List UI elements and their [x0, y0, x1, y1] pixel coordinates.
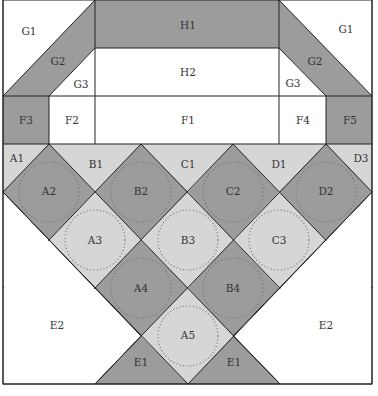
label-g3-right: G3 [285, 77, 300, 89]
label-a5: A5 [180, 329, 195, 341]
label-f4: F4 [296, 114, 310, 126]
label-e1-left: E1 [134, 356, 148, 368]
label-a4: A4 [133, 282, 149, 294]
label-g2-left: G2 [50, 55, 65, 67]
label-g3-left: G3 [73, 78, 88, 90]
label-a3: A3 [87, 234, 102, 246]
label-b2: B2 [134, 185, 148, 197]
label-f2: F2 [65, 114, 79, 126]
quilt-block-diagram: G1 G1 G2 G2 G3 G3 H1 H2 F1 F2 F3 F4 F5 A… [0, 0, 378, 396]
label-d1: D1 [271, 158, 286, 170]
label-f5: F5 [343, 114, 357, 126]
label-a2: A2 [41, 185, 56, 197]
label-c3: C3 [272, 234, 287, 246]
label-f1: F1 [181, 114, 195, 126]
label-g2-right: G2 [307, 55, 322, 67]
label-g1-left: G1 [21, 25, 36, 37]
label-e1-right: E1 [227, 356, 241, 368]
label-e2-right: E2 [319, 319, 333, 331]
label-e2-left: E2 [50, 319, 64, 331]
label-b3: B3 [181, 234, 195, 246]
label-g1-right: G1 [338, 23, 353, 35]
label-d3: D3 [353, 152, 368, 164]
label-c1: C1 [181, 158, 196, 170]
label-b1: B1 [89, 158, 103, 170]
label-f3: F3 [19, 114, 33, 126]
label-d2: D2 [318, 185, 333, 197]
label-h1: H1 [180, 19, 196, 31]
label-a1: A1 [9, 152, 24, 164]
label-b4: B4 [226, 282, 241, 294]
label-c2: C2 [226, 185, 241, 197]
label-h2: H2 [180, 66, 196, 78]
